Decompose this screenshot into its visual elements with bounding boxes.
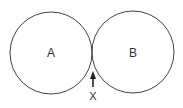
label-a: A <box>47 46 55 60</box>
label-x: X <box>89 90 97 102</box>
arrow-up-icon <box>90 71 96 87</box>
diagram-canvas: A B X <box>0 0 183 108</box>
label-b: B <box>129 46 137 60</box>
